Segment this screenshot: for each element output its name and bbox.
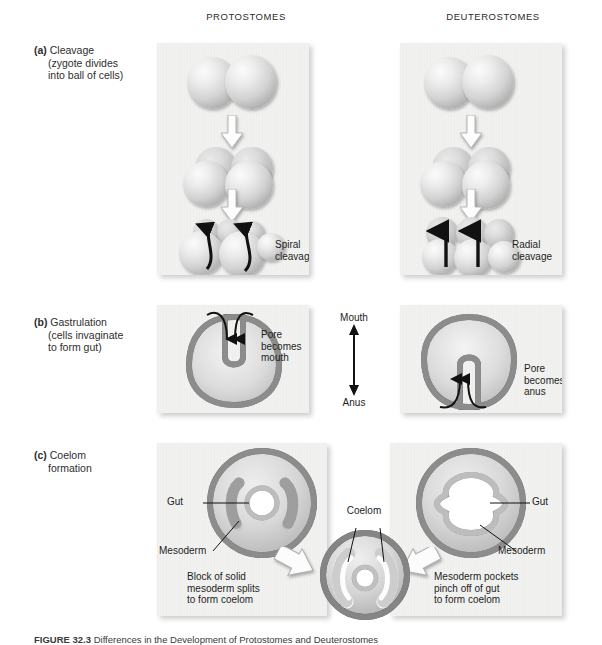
figure-caption: FIGURE 32.3 Differences in the Developme…	[34, 634, 574, 645]
stage-arrow-down-icon	[458, 115, 484, 149]
two-cell-stage-protostome	[185, 53, 285, 113]
coelom-center-diagram	[318, 528, 412, 622]
coelom-protostome-diagram	[203, 447, 321, 559]
row-sub-a2: into ball of cells)	[34, 69, 154, 82]
row-marker-c: (c)	[34, 449, 47, 461]
coelom-center-label: Coelom	[316, 505, 412, 516]
row-sub-a1: (zygote divides	[34, 57, 154, 70]
spiral-cleavage-arrow-icon	[187, 219, 287, 275]
coelom-deuterostome-gut-label: Gut	[532, 496, 548, 508]
radial-cleavage-label: Radial cleavage	[512, 239, 552, 262]
radial-cleavage-arrow-icon	[424, 219, 524, 275]
row-label-cleavage: (a) Cleavage (zygote divides into ball o…	[34, 44, 154, 82]
figure-protostome-deuterostome-development: PROTOSTOMES DEUTEROSTOMES (a) Cleavage (…	[0, 0, 602, 645]
column-header-protostomes: PROTOSTOMES	[166, 11, 326, 22]
row-label-coelom: (c) Coelom formation	[34, 449, 154, 474]
panel-gastrulation-deuterostome: Pore becomes anus	[400, 305, 562, 413]
row-marker-b: (b)	[34, 316, 47, 328]
double-arrow-icon	[322, 323, 386, 397]
stage-arrow-down-icon	[219, 115, 245, 149]
row-title-b: Gastrulation	[50, 316, 107, 328]
panel-coelom-protostome: Gut Mesoderm Block of solid mesoderm spl…	[157, 443, 327, 616]
panel-cleavage-protostome: Spiral cleavage	[157, 43, 309, 275]
mouth-anus-axis: Mouth Anus	[322, 312, 386, 412]
axis-label-mouth: Mouth	[322, 312, 386, 323]
transition-arrow-icon	[273, 547, 317, 587]
row-label-gastrulation: (b) Gastrulation (cells invaginate to fo…	[34, 316, 154, 354]
coelom-deuterostome-diagram	[412, 447, 530, 559]
coelom-protostome-gut-label: Gut	[167, 496, 183, 508]
invagination-arrow-icon	[434, 361, 510, 411]
panel-coelom-deuterostome: Gut Mesoderm Mesoderm pockets pinch off …	[390, 443, 562, 616]
row-title-a: Cleavage	[50, 44, 94, 56]
row-sub-b1: (cells invaginate	[34, 329, 154, 342]
blastomere	[225, 55, 277, 109]
figure-caption-label: FIGURE 32.3	[34, 634, 91, 645]
pore-becomes-mouth-label: Pore becomes mouth	[261, 329, 302, 364]
spiral-cleavage-label: Spiral cleavage	[275, 239, 309, 262]
panel-cleavage-deuterostome: Radial cleavage	[400, 43, 562, 275]
panel-gastrulation-protostome: Pore becomes mouth	[157, 305, 309, 413]
coelom-deuterostome-mesoderm-label: Mesoderm	[498, 545, 545, 557]
coelom-deuterostome-description: Mesoderm pockets pinch off of gut to for…	[434, 571, 518, 606]
pore-becomes-anus-label: Pore becomes anus	[524, 363, 562, 398]
row-sub-c1: formation	[34, 462, 154, 475]
blastomere	[462, 55, 514, 109]
coelom-protostome-description: Block of solid mesoderm splits to form c…	[187, 571, 260, 606]
axis-label-anus: Anus	[322, 397, 386, 408]
row-marker-a: (a)	[34, 44, 47, 56]
column-header-deuterostomes: DEUTEROSTOMES	[408, 11, 578, 22]
two-cell-stage-deuterostome	[422, 53, 522, 113]
figure-caption-text: Differences in the Development of Protos…	[94, 634, 378, 645]
coelom-protostome-mesoderm-label: Mesoderm	[159, 545, 206, 557]
stage-arrow-down-icon	[219, 189, 245, 223]
row-sub-b2: to form gut)	[34, 341, 154, 354]
row-title-c: Coelom	[50, 449, 86, 461]
